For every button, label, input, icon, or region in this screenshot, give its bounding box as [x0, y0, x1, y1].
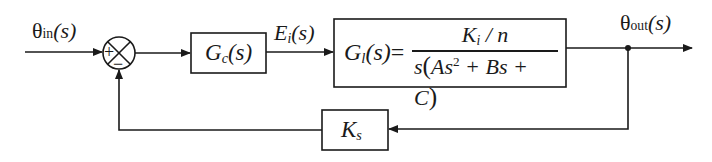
feedback-line-left — [119, 70, 322, 130]
input-theta: θ — [32, 18, 43, 43]
minus-sign: − — [113, 55, 123, 73]
input-arg: (s) — [53, 18, 76, 43]
numerator-subscript: i — [476, 33, 480, 48]
plant-equals: = — [391, 39, 405, 65]
output-arg: (s) — [648, 10, 671, 35]
controller-symbol: G — [205, 40, 222, 65]
plant-arg: (s) — [365, 39, 390, 65]
error-subscript: i — [287, 31, 291, 46]
controller-label: Gc(s) — [205, 41, 252, 64]
denominator-open-paren: ( — [423, 51, 431, 79]
input-subscript: in — [43, 26, 54, 41]
plant-transfer-fraction: Ki / n s(As2 + Bs + C) — [412, 23, 558, 111]
output-signal-label: θout(s) — [620, 12, 671, 34]
error-arg: (s) — [291, 20, 314, 45]
output-subscript: out — [631, 18, 648, 33]
denominator-close-paren: ) — [429, 82, 437, 110]
controller-subscript: c — [222, 50, 228, 66]
plant-symbol: G — [344, 39, 361, 65]
plant-lhs: Gl(s)= — [344, 40, 404, 64]
plant-denominator: s(As2 + Bs + C) — [412, 52, 558, 111]
numerator-rest: / n — [480, 22, 508, 47]
error-signal-label: Ei(s) — [274, 22, 314, 44]
feedback-symbol: K — [341, 117, 356, 142]
input-signal-label: θin(s) — [32, 20, 76, 42]
numerator-gain: K — [462, 22, 477, 47]
denominator-exponent: 2 — [453, 54, 460, 69]
denominator-term1: As — [431, 54, 453, 79]
output-theta: θ — [620, 10, 631, 35]
controller-arg: (s) — [228, 40, 252, 65]
feedback-gain-label: Ks — [341, 118, 362, 141]
plant-numerator: Ki / n — [458, 23, 513, 50]
plant-subscript: l — [361, 50, 365, 66]
takeoff-point — [625, 45, 631, 51]
denominator-prefix: s — [414, 54, 423, 79]
error-symbol: E — [274, 20, 287, 45]
feedback-subscript: s — [356, 127, 362, 143]
